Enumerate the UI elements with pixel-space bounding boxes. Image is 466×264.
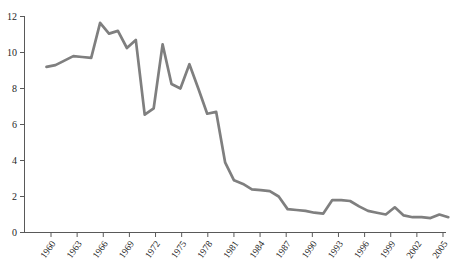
x-tick-label: 1984 (248, 239, 267, 261)
line-chart: 0246810121960196319661969197219751978198… (0, 0, 466, 264)
x-tick-label: 1987 (274, 239, 293, 261)
x-tick-label: 1963 (65, 239, 84, 261)
y-tick-label: 2 (12, 191, 17, 202)
x-tick-label: 1966 (91, 239, 110, 261)
y-tick-label: 4 (12, 155, 17, 166)
y-tick-label: 12 (7, 11, 17, 22)
x-tick-label: 1990 (300, 239, 319, 261)
x-tick-label: 1969 (117, 239, 136, 261)
x-tick-label: 1978 (195, 239, 214, 261)
y-tick-label: 0 (12, 227, 17, 238)
x-tick-label: 1960 (39, 239, 58, 261)
x-tick-label: 1975 (169, 239, 188, 261)
x-tick-label: 1981 (221, 239, 240, 261)
y-tick-label: 8 (12, 83, 17, 94)
x-tick-label: 1972 (143, 239, 162, 261)
data-series-line (47, 23, 449, 218)
x-tick-label: 2002 (404, 239, 423, 261)
y-tick-label: 6 (12, 119, 17, 130)
x-tick-label: 1996 (352, 239, 371, 261)
x-tick-label: 2005 (431, 239, 450, 261)
chart-svg: 0246810121960196319661969197219751978198… (0, 0, 466, 264)
y-tick-label: 10 (7, 47, 17, 58)
x-tick-label: 1999 (378, 239, 397, 261)
x-tick-label: 1993 (326, 239, 345, 261)
